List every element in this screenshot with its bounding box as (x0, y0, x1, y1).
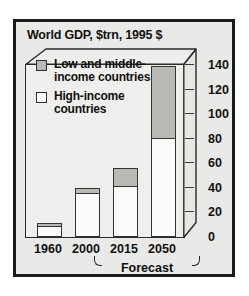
x-label-1960: 1960 (29, 242, 67, 256)
x-label-2015: 2015 (105, 242, 143, 256)
legend-label-high-income-line2: countries (54, 102, 106, 116)
legend-label-high-income: High-income countries (54, 90, 124, 115)
legend-label-low-middle: Low and middle- income countries (54, 58, 150, 83)
chart-figure: World GDP, $trn, 1995 $ (13, 19, 235, 277)
x-label-2050: 2050 (143, 242, 181, 256)
forecast-bracket: Forecast (94, 256, 200, 278)
white-swatch-icon (36, 92, 47, 103)
y-label-20: 20 (208, 206, 240, 218)
gray-swatch-icon (36, 60, 47, 71)
legend-item-low-middle: Low and middle- income countries (36, 58, 171, 83)
bar-segment-low-middle-2015 (113, 168, 138, 186)
chart-title: World GDP, $trn, 1995 $ (27, 28, 162, 42)
legend-label-low-middle-line2: income countries (54, 70, 150, 84)
y-label-120: 120 (208, 84, 240, 96)
chart-legend: Low and middle- income countries High-in… (36, 58, 171, 122)
y-label-80: 80 (208, 133, 240, 145)
bar-segment-high-income-2050 (151, 138, 176, 237)
y-label-40: 40 (208, 182, 240, 194)
bar-group-1960 (37, 223, 62, 237)
y-label-140: 140 (208, 59, 240, 71)
y-tick-120 (185, 89, 194, 90)
y-tick-100 (185, 113, 194, 114)
y-tick-140 (185, 64, 194, 65)
legend-item-high-income: High-income countries (36, 90, 171, 115)
x-label-2000: 2000 (67, 242, 105, 256)
forecast-label: Forecast (94, 261, 200, 275)
y-label-0: 0 (208, 231, 240, 243)
bar-segment-high-income-2000 (75, 193, 100, 237)
bar-segment-high-income-2015 (113, 186, 138, 237)
bar-group-2000 (75, 188, 100, 237)
y-axis-ticks (185, 64, 205, 238)
y-tick-60 (185, 162, 194, 163)
bar-group-2015 (113, 168, 138, 237)
y-tick-20 (185, 211, 194, 212)
y-tick-40 (185, 187, 194, 188)
y-label-60: 60 (208, 157, 240, 169)
y-label-100: 100 (208, 108, 240, 120)
y-axis-labels: 140 120 100 80 60 40 20 0 (208, 48, 240, 238)
y-tick-80 (185, 138, 194, 139)
bar-segment-high-income-1960 (37, 226, 62, 237)
